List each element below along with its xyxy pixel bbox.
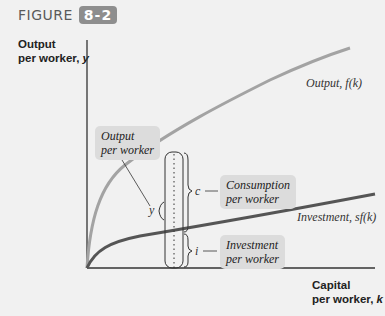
- y-brace: [159, 202, 164, 220]
- i-symbol: i: [195, 244, 198, 258]
- output-leader: [122, 160, 150, 206]
- x-axis-label-line2: per worker, k: [312, 292, 383, 306]
- consumption-box: Consumption per worker: [220, 175, 296, 209]
- y-symbol: y: [149, 203, 154, 217]
- x-axis-label: Capital per worker, k: [312, 278, 383, 306]
- output-per-worker-box: Output per worker: [95, 126, 160, 160]
- investment-curve-label: Investment, sf(k): [297, 210, 376, 224]
- output-curve-label: Output, f(k): [306, 76, 362, 90]
- investment-box: Investment per worker: [220, 235, 285, 269]
- c-brace: [184, 153, 192, 232]
- x-axis-label-line1: Capital: [312, 278, 383, 292]
- diagram-canvas: [0, 0, 385, 316]
- c-symbol: c: [195, 184, 200, 198]
- y-bracket: [165, 152, 183, 268]
- i-brace: [184, 234, 192, 267]
